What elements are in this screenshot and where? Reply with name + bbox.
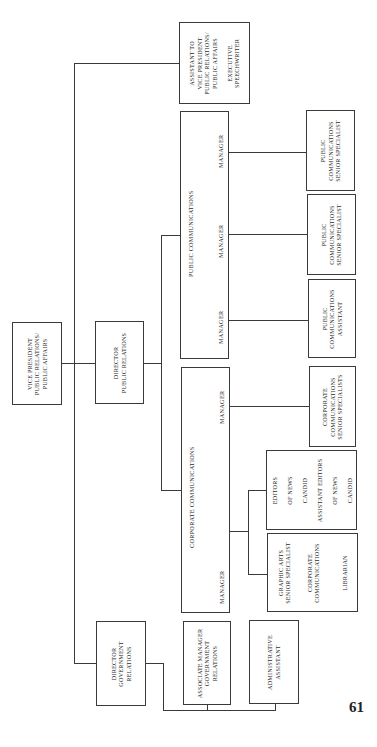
- editors-line-3: Candid: [297, 478, 312, 503]
- box-editors: Editors of News Candid Assistant Editors…: [266, 450, 357, 530]
- pc-manager-3: Manager: [217, 311, 224, 344]
- connector-vp-to-director-pr: [61, 363, 96, 364]
- director-gov-line-3: Relations: [125, 646, 133, 682]
- box-pc-senior-specialist-2: Public Communications Senior Specialist: [307, 194, 356, 275]
- connector-pr-out: [143, 363, 162, 364]
- editors-line-6: Candid: [342, 478, 357, 503]
- pc-senior-2-line-2: Communications: [328, 205, 336, 265]
- connector-pc-mgr1: [227, 152, 307, 153]
- box-vice-president: Vice President Public Relations/ Public …: [12, 322, 62, 405]
- cc-senior-line-1: Corporate: [321, 388, 329, 426]
- vp-line-1: Vice President: [26, 338, 34, 390]
- box-graphic-arts-librarian: Graphic Arts Senior Specialist Corporate…: [267, 533, 358, 612]
- connector-gov-out: [145, 663, 164, 664]
- box-pc-assistant: Public Communications Assistant: [308, 279, 356, 358]
- box-cc-senior-specialists: Corporate Communications Senior Speciali…: [309, 366, 356, 447]
- graphic-arts-line-1: Graphic Arts: [277, 550, 285, 596]
- connector-pc-mgr2: [227, 234, 308, 235]
- assoc-mgr-line-2: Government: [203, 641, 211, 686]
- assistant-line-4: Public Affairs: [211, 38, 219, 89]
- cc-senior-line-2: Communications: [329, 377, 337, 437]
- graphic-arts-line-7: Librarian: [341, 555, 349, 591]
- pc-assistant-line-3: Assistant: [336, 302, 344, 337]
- page-number: 61: [349, 699, 364, 716]
- pc-senior-1-line-1: Public: [319, 139, 327, 162]
- connector-to-assoc-mgr: [207, 704, 208, 711]
- box-administrative-assistant: Administrative Assistant: [249, 620, 299, 704]
- editors-line-1: Editors: [267, 477, 282, 504]
- graphic-arts-line-4: Corporate: [306, 554, 314, 592]
- box-director-government-relations: Director Government Relations: [96, 621, 146, 706]
- pc-senior-1-line-2: Communications: [327, 121, 335, 181]
- director-pr-line-2: Public Relations: [120, 333, 128, 393]
- assistant-line-2: Vice President: [196, 37, 204, 89]
- graphic-arts-line-2: Senior Specialist: [284, 542, 292, 604]
- director-gov-line-1: Director: [110, 648, 118, 680]
- box-pc-senior-specialist-1: Public Communications Senior Specialist: [306, 110, 355, 191]
- assoc-mgr-line-1: Associate Manager: [196, 629, 204, 699]
- connector-gov-bottom: [163, 710, 275, 711]
- connector-cc-mgr2: [229, 531, 248, 532]
- connector-cc-mgr1: [229, 406, 310, 407]
- pc-assistant-line-2: Communications: [328, 289, 336, 349]
- graphic-arts-line-5: Communications: [313, 543, 321, 603]
- connector-pr-spine: [161, 235, 162, 491]
- box-public-communications: Public Communications Manager Manager Ma…: [180, 111, 229, 359]
- cc-manager-1: Manager: [218, 391, 225, 424]
- vp-line-2: Public Relations/: [33, 333, 41, 395]
- assistant-line-3: Public Relations/: [203, 32, 211, 94]
- pc-senior-2-line-3: Senior Specialist: [335, 204, 343, 266]
- connector-to-assistant: [74, 63, 180, 64]
- vp-line-3: Public Affairs: [41, 339, 49, 390]
- pc-manager-1: Manager: [217, 135, 224, 168]
- pc-senior-2-line-1: Public: [320, 223, 328, 246]
- corporate-comms-title: Corporate Communications: [188, 446, 195, 548]
- cc-manager-2: Manager: [218, 571, 225, 604]
- assistant-line-7: Speechwriter: [233, 39, 241, 88]
- box-associate-manager-gov: Associate Manager Government Relations: [183, 621, 231, 705]
- director-pr-line-1: Director: [112, 347, 120, 379]
- admin-line-1: Administrative: [266, 635, 274, 690]
- box-director-public-relations: Director Public Relations: [95, 321, 144, 404]
- assistant-line-1: Assistant to: [188, 41, 196, 86]
- connector-pc-mgr3: [228, 320, 309, 321]
- pc-manager-2: Manager: [217, 225, 224, 258]
- assistant-line-6: Executive: [226, 45, 234, 82]
- admin-line-2: Assistant: [274, 645, 282, 680]
- connector-to-director-gov: [74, 663, 97, 664]
- cc-senior-line-3: Senior Specialists: [336, 374, 344, 439]
- pc-senior-1-line-3: Senior Specialist: [334, 120, 342, 182]
- connector-to-graphic-arts: [248, 574, 267, 575]
- pc-assistant-line-1: Public: [321, 307, 329, 330]
- connector-to-admin: [275, 703, 276, 711]
- box-corporate-communications: Corporate Communications Manager Manager: [181, 367, 230, 613]
- box-assistant-to-vp: Assistant to Vice President Public Relat…: [179, 22, 250, 104]
- editors-line-4: Assistant Editors: [312, 459, 327, 523]
- director-gov-line-2: Government: [117, 641, 125, 686]
- connector-to-editors: [248, 490, 267, 491]
- connector-gov-down: [163, 663, 164, 711]
- connector-to-public-comms: [161, 235, 181, 236]
- connector-cc-mgr2-spine: [248, 490, 249, 575]
- public-comms-title: Public Communications: [187, 190, 194, 277]
- connector-to-corporate-comms: [161, 490, 181, 491]
- assoc-mgr-line-3: Relations: [211, 646, 219, 682]
- editors-line-2: of News: [282, 476, 297, 504]
- editors-line-5: of News: [327, 476, 342, 504]
